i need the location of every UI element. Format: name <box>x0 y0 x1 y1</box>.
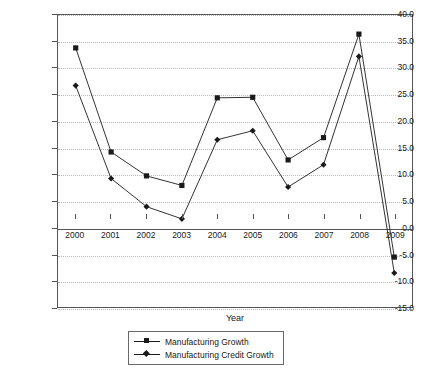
x-tick-mark <box>253 214 254 219</box>
data-point-diamond <box>320 162 326 168</box>
legend-marker-square-icon <box>134 336 160 347</box>
x-tick-label: 2002 <box>137 230 156 240</box>
y-tick-label: 25.0 <box>369 89 421 99</box>
series-line <box>76 34 395 257</box>
x-tick-mark <box>217 214 218 219</box>
legend-item-manufacturing-credit-growth[interactable]: Manufacturing Credit Growth <box>134 348 274 361</box>
x-tick-mark <box>75 214 76 219</box>
y-tick-label: 20.0 <box>369 116 421 126</box>
data-point-diamond <box>285 184 291 190</box>
series-line <box>76 56 395 273</box>
data-point-square <box>215 95 220 100</box>
y-tick-mark <box>52 281 57 282</box>
series-layer <box>58 15 412 307</box>
series-2 <box>73 53 398 276</box>
x-tick-label: 2006 <box>279 230 298 240</box>
x-tick-label: 2004 <box>208 230 227 240</box>
y-tick-mark <box>52 201 57 202</box>
data-point-square <box>250 95 255 100</box>
y-tick-label: 10.0 <box>369 169 421 179</box>
data-point-square <box>179 183 184 188</box>
legend-label: Manufacturing Growth <box>165 337 249 347</box>
x-tick-mark <box>288 214 289 219</box>
data-point-square <box>109 149 114 154</box>
gridline <box>58 309 412 310</box>
x-tick-mark <box>395 214 396 219</box>
x-axis-title: Year <box>57 313 413 323</box>
x-tick-label: 2000 <box>65 230 84 240</box>
data-point-square <box>286 157 291 162</box>
legend-label: Manufacturing Credit Growth <box>165 350 274 360</box>
y-tick-mark <box>52 41 57 42</box>
y-tick-mark <box>52 228 57 229</box>
x-tick-mark <box>360 214 361 219</box>
data-point-square <box>356 32 361 37</box>
y-tick-label: -10.0 <box>369 276 421 286</box>
x-tick-mark <box>182 214 183 219</box>
y-tick-label: 5.0 <box>369 196 421 206</box>
data-point-diamond <box>250 128 256 134</box>
data-point-diamond <box>356 53 362 59</box>
y-tick-mark <box>52 308 57 309</box>
x-tick-mark <box>146 214 147 219</box>
y-tick-label: -5.0 <box>369 250 421 260</box>
y-tick-label: 35.0 <box>369 36 421 46</box>
x-tick-label: 2008 <box>350 230 369 240</box>
y-tick-mark <box>52 121 57 122</box>
y-tick-label: -15.0 <box>369 303 421 313</box>
data-point-diamond <box>391 270 397 276</box>
chart-figure: % per annum 40.035.030.025.020.015.010.0… <box>0 0 421 379</box>
legend-marker-diamond-icon <box>134 349 160 360</box>
y-tick-mark <box>52 148 57 149</box>
data-point-square <box>321 135 326 140</box>
data-point-square <box>73 45 78 50</box>
y-tick-mark <box>52 255 57 256</box>
x-tick-mark <box>110 214 111 219</box>
x-tick-label: 2005 <box>243 230 262 240</box>
y-tick-label: 30.0 <box>369 62 421 72</box>
y-tick-mark <box>52 14 57 15</box>
y-tick-mark <box>52 67 57 68</box>
x-tick-label: 2009 <box>386 230 405 240</box>
y-tick-mark <box>52 94 57 95</box>
data-point-square <box>144 173 149 178</box>
legend-item-manufacturing-growth[interactable]: Manufacturing Growth <box>134 335 274 348</box>
x-tick-label: 2007 <box>315 230 334 240</box>
chart-legend: Manufacturing Growth Manufacturing Credi… <box>128 331 284 365</box>
x-tick-label: 2001 <box>101 230 120 240</box>
x-tick-mark <box>324 214 325 219</box>
data-point-diamond <box>214 137 220 143</box>
x-tick-label: 2003 <box>172 230 191 240</box>
y-tick-mark <box>52 174 57 175</box>
y-tick-label: 15.0 <box>369 143 421 153</box>
data-point-diamond <box>73 83 79 89</box>
plot-area <box>57 14 413 308</box>
series-1 <box>73 32 397 260</box>
y-tick-label: 40.0 <box>369 9 421 19</box>
